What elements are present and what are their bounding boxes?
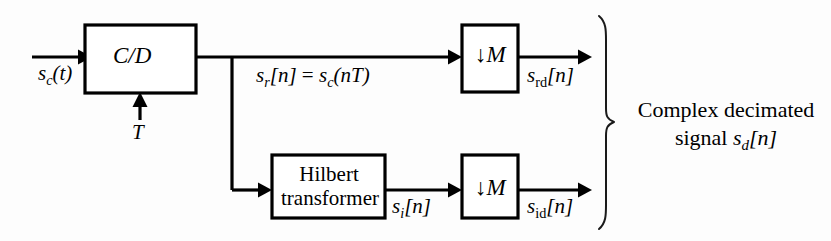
real-branch-wire	[196, 50, 462, 65]
block-diagram: sc(t) C/D T sr[n] = sc(nT) ↓M srd[n] Hil…	[0, 0, 831, 241]
down-arrow-icon: ↓	[475, 42, 487, 67]
label-cd-block: C/D	[113, 44, 151, 67]
grouping-brace	[599, 16, 614, 229]
label-hilbert-transformer: Hilbert transformer	[281, 163, 377, 210]
label-input-signal: sc(t)	[38, 63, 72, 87]
label-clock-period: T	[132, 122, 144, 143]
label-real-decimated-signal: srd[n]	[527, 65, 574, 89]
label-complex-decimated-annotation: Complex decimated signal sd[n]	[626, 96, 826, 154]
label-downsampler-bottom: ↓M	[475, 176, 506, 199]
label-downsampler-top: ↓M	[475, 43, 506, 66]
label-imag-decimated-signal: sid[n]	[527, 196, 573, 220]
label-real-branch-signal: sr[n] = sc(nT)	[256, 65, 370, 89]
down-arrow-icon: ↓	[475, 175, 487, 200]
label-imag-branch-signal: si[n]	[392, 196, 431, 220]
clock-input-arrow	[133, 92, 148, 120]
